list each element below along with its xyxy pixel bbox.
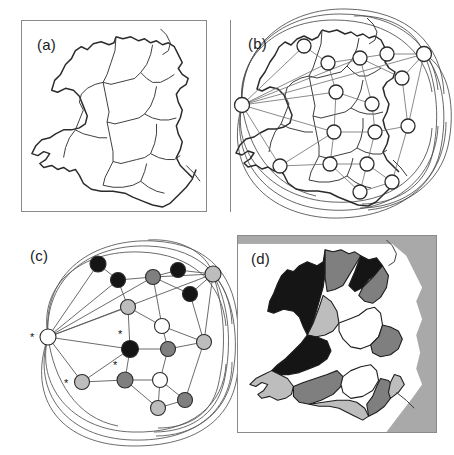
node-b-n10[interactable] [327, 125, 341, 139]
graph-nodes-b [235, 39, 432, 199]
asterisk-marker-n10: * [118, 328, 123, 340]
node-b-n11[interactable] [368, 125, 382, 139]
node-b-n9[interactable] [365, 97, 379, 111]
node-c-n13[interactable] [117, 372, 133, 388]
node-c-n3[interactable] [111, 273, 126, 288]
node-b-n5[interactable] [380, 47, 394, 61]
panel-b: (b) [212, 6, 454, 222]
node-b-n1[interactable] [235, 98, 250, 113]
node-b-n13[interactable] [323, 157, 337, 171]
region-boundaries-a [64, 37, 181, 193]
panel-b-divider [230, 20, 232, 212]
node-c-n16[interactable] [178, 393, 193, 408]
node-b-n4[interactable] [353, 51, 367, 65]
panel-c-label: (c) [30, 248, 48, 263]
panel-c: * * * * (c) [8, 232, 238, 450]
node-b-n7[interactable] [395, 71, 409, 85]
node-c-n7[interactable] [183, 287, 198, 302]
panel-c-graph: * * * * [8, 232, 238, 450]
panel-a-label: (a) [37, 37, 56, 52]
node-c-n12[interactable] [75, 375, 90, 390]
node-b-n2[interactable] [297, 39, 311, 53]
asterisk-marker-n12: * [64, 377, 69, 389]
node-b-n6[interactable] [417, 47, 432, 62]
node-c-n17[interactable] [197, 335, 212, 350]
node-c-n14[interactable] [153, 373, 168, 388]
node-c-n5[interactable] [171, 263, 186, 278]
node-b-n8[interactable] [329, 85, 343, 99]
node-b-n16[interactable] [385, 175, 399, 189]
figure-container: (a) [0, 0, 454, 455]
asterisk-marker-n13: * [113, 359, 118, 371]
panel-a: (a) [21, 20, 207, 212]
panel-d-label: (d) [251, 251, 270, 266]
node-c-n9[interactable] [155, 319, 170, 334]
sea-region-north [238, 236, 436, 244]
node-c-n6[interactable] [205, 266, 221, 282]
node-b-n15[interactable] [353, 185, 367, 199]
panel-d: (d) [237, 235, 437, 433]
panel-b-label: (b) [248, 36, 267, 51]
node-b-n12[interactable] [273, 159, 287, 173]
node-b-n3[interactable] [321, 56, 335, 70]
node-b-n17[interactable] [401, 119, 415, 133]
node-c-n10[interactable] [122, 341, 139, 358]
node-c-n4[interactable] [146, 270, 161, 285]
node-c-n8[interactable] [121, 300, 136, 315]
node-c-n1[interactable] [40, 329, 56, 345]
asterisk-marker-n1: * [30, 331, 35, 343]
node-b-n14[interactable] [360, 157, 374, 171]
node-c-n2[interactable] [90, 256, 106, 272]
node-c-n11[interactable] [161, 342, 176, 357]
node-c-n15[interactable] [151, 401, 166, 416]
curved-edges-b [237, 9, 451, 218]
